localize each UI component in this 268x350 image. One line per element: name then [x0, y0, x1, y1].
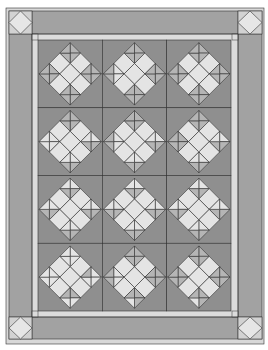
strip-corner-square	[232, 311, 238, 317]
quilt-block	[167, 243, 231, 311]
quilt-block	[102, 40, 166, 108]
quilt-block	[38, 108, 102, 176]
cornerstone-top-left	[9, 11, 32, 34]
quilt-block	[102, 108, 166, 176]
strip-corner-square	[32, 34, 38, 40]
quilt-block	[102, 243, 166, 311]
quilt-block	[167, 176, 231, 244]
cornerstone-bottom-right	[238, 317, 262, 339]
strip-corner-square	[32, 311, 38, 317]
quilt-blocks	[38, 40, 231, 311]
quilt-block	[167, 108, 231, 176]
cornerstone-top-right	[238, 11, 262, 34]
quilt-diagram	[0, 0, 268, 350]
quilt-block	[167, 40, 231, 108]
quilt-block	[102, 176, 166, 244]
quilt-block	[38, 176, 102, 244]
quilt-block	[38, 40, 102, 108]
cornerstone-bottom-left	[9, 317, 32, 339]
quilt-block	[38, 243, 102, 311]
strip-corner-square	[232, 34, 238, 40]
